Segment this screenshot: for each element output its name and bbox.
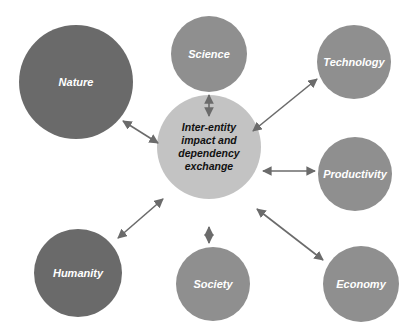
arrow-economy xyxy=(257,209,323,260)
label-nature: Nature xyxy=(20,72,132,92)
label-center: Inter-entity impact and dependency excha… xyxy=(165,117,253,177)
arrow-humanity xyxy=(118,199,163,238)
center-line-2: impact and xyxy=(181,134,236,147)
label-economy: Economy xyxy=(323,276,399,292)
label-science: Science xyxy=(171,46,247,62)
center-line-3: dependency xyxy=(178,147,239,160)
label-society: Society xyxy=(176,276,250,292)
arrow-nature xyxy=(123,121,158,143)
center-line-1: Inter-entity xyxy=(182,121,236,134)
label-productivity: Productivity xyxy=(318,166,392,182)
label-technology: Technology xyxy=(317,54,391,70)
center-line-4: exchange xyxy=(185,160,233,173)
arrow-technology xyxy=(253,79,317,131)
label-humanity: Humanity xyxy=(34,265,122,281)
